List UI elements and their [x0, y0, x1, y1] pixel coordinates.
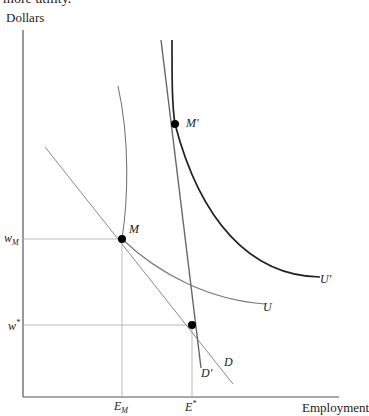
- point-E-star: [188, 321, 196, 329]
- point-M-prime-label: M': [186, 116, 199, 131]
- EM-tick-label: EM: [114, 399, 128, 415]
- wM-tick-label: wM: [4, 231, 19, 247]
- wstar-tick-label: w*: [8, 318, 20, 334]
- point-M-prime: [171, 120, 179, 128]
- demand-curve-D: [45, 147, 233, 384]
- curve-U-label: U: [263, 300, 272, 315]
- curve-D-label: D: [224, 355, 233, 370]
- curve-D-prime-label: D': [201, 366, 212, 381]
- indifference-curve-U-prime: [172, 40, 320, 277]
- point-M-label: M: [129, 222, 139, 237]
- Estar-tick-label: E*: [185, 399, 196, 415]
- x-axis-label: Employment: [302, 400, 369, 416]
- point-M: [118, 235, 126, 243]
- curve-U-prime-label: U': [320, 272, 331, 287]
